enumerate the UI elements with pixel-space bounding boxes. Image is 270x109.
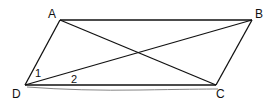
vertex-label-a: A <box>48 7 56 21</box>
angle-label-2: 2 <box>71 73 77 85</box>
side-da <box>25 20 60 85</box>
hand-drawn-underline <box>27 87 218 90</box>
vertex-label-c: C <box>216 87 225 101</box>
angle-label-1: 1 <box>35 67 41 79</box>
vertex-label-b: B <box>255 7 263 21</box>
diagonal-db <box>25 20 252 85</box>
vertex-label-d: D <box>12 87 21 101</box>
parallelogram-diagram: A B C D 1 2 <box>0 0 270 109</box>
side-bc <box>216 20 252 85</box>
